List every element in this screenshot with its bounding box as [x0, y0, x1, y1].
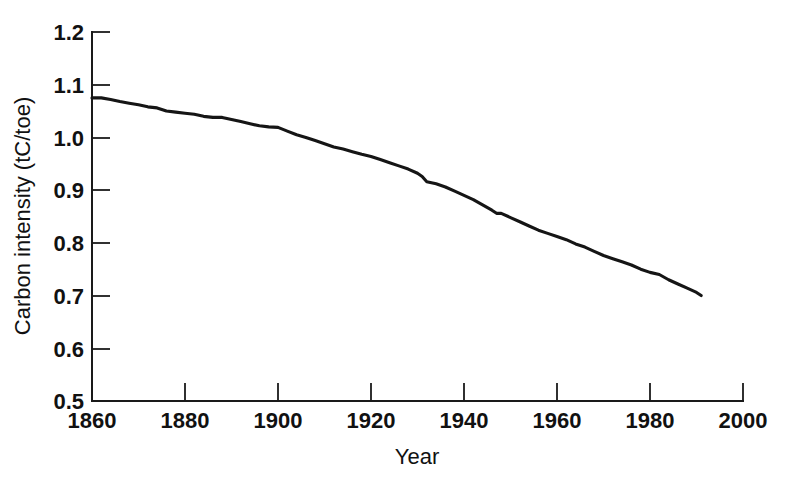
y-tick-label: 0.7 [53, 284, 84, 309]
y-tick-label: 1.2 [53, 20, 84, 45]
y-tick-label: 0.8 [53, 231, 84, 256]
x-tick-label: 2000 [719, 408, 768, 433]
x-tick-label: 1900 [254, 408, 303, 433]
data-series-line [92, 98, 701, 296]
x-axis-title: Year [395, 444, 439, 469]
y-tick-marks [92, 32, 110, 401]
x-tick-label: 1960 [533, 408, 582, 433]
x-tick-label: 1880 [161, 408, 210, 433]
x-tick-label: 1980 [626, 408, 675, 433]
y-tick-labels: 1.2 1.1 1.0 0.9 0.8 0.7 0.6 0.5 [53, 20, 84, 414]
carbon-intensity-line-chart: 1.2 1.1 1.0 0.9 0.8 0.7 0.6 0.5 1860 188… [0, 0, 793, 482]
y-tick-label: 0.6 [53, 337, 84, 362]
chart-figure: 1.2 1.1 1.0 0.9 0.8 0.7 0.6 0.5 1860 188… [0, 0, 793, 482]
x-tick-labels: 1860 1880 1900 1920 1940 1960 1980 2000 [68, 408, 768, 433]
axis-spines [92, 32, 743, 401]
x-tick-label: 1940 [440, 408, 489, 433]
y-tick-label: 1.1 [53, 73, 84, 98]
y-axis-title: Carbon intensity (tC/toe) [10, 97, 35, 335]
y-tick-label: 0.9 [53, 178, 84, 203]
x-tick-marks [92, 383, 743, 401]
x-tick-label: 1920 [347, 408, 396, 433]
y-tick-label: 1.0 [53, 126, 84, 151]
x-tick-label: 1860 [68, 408, 117, 433]
